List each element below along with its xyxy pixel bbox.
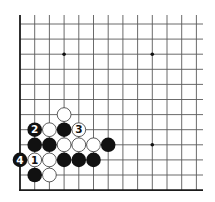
black-stone-move-2: 2 xyxy=(27,122,42,137)
black-stone xyxy=(27,138,42,153)
move-number-label: 2 xyxy=(31,123,38,135)
move-number-label: 3 xyxy=(75,123,82,135)
white-stone xyxy=(43,153,57,167)
move-number-label: 4 xyxy=(16,154,23,166)
black-stone-move-4: 4 xyxy=(13,153,28,168)
black-stone-icon xyxy=(27,138,42,153)
black-stone-icon xyxy=(27,168,42,183)
black-stone xyxy=(57,153,72,168)
black-stone-icon xyxy=(72,153,87,168)
black-stone xyxy=(42,138,57,153)
star-point-icon xyxy=(151,143,155,147)
white-stone xyxy=(72,138,86,152)
move-number-label: 1 xyxy=(31,154,38,166)
white-stone-icon xyxy=(57,138,71,152)
white-stone-icon xyxy=(43,168,57,182)
black-stone xyxy=(72,153,87,168)
white-stone xyxy=(57,138,71,152)
black-stone xyxy=(101,138,116,153)
black-stone-icon xyxy=(42,138,57,153)
black-stone-icon xyxy=(57,122,72,137)
star-point-icon xyxy=(151,52,155,56)
white-stone-icon xyxy=(87,138,101,152)
white-stone-icon xyxy=(57,108,71,122)
white-stone-move-1: 1 xyxy=(28,153,42,167)
white-stone xyxy=(43,168,57,182)
white-stone-move-3: 3 xyxy=(72,123,86,137)
black-stone xyxy=(57,122,72,137)
go-board: 2341 xyxy=(0,0,215,202)
black-stone-icon xyxy=(57,153,72,168)
black-stone xyxy=(27,168,42,183)
black-stone xyxy=(86,153,101,168)
white-stone xyxy=(43,123,57,137)
black-stone-icon xyxy=(101,138,116,153)
white-stone-icon xyxy=(43,153,57,167)
white-stone xyxy=(57,108,71,122)
star-point-icon xyxy=(62,52,66,56)
black-stone-icon xyxy=(86,153,101,168)
white-stone-icon xyxy=(72,138,86,152)
white-stone-icon xyxy=(43,123,57,137)
white-stone xyxy=(87,138,101,152)
